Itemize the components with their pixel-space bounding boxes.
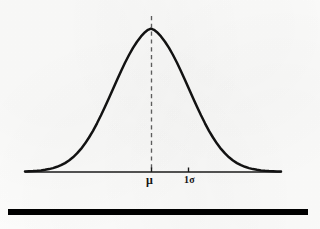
bottom-rule: [8, 209, 308, 215]
axis-label-mu: μ: [146, 174, 153, 186]
axis-label-one-sigma: 1σ: [184, 175, 195, 185]
normal-distribution-figure: μ 1σ: [0, 0, 320, 229]
bell-curve: [25, 29, 281, 172]
distribution-plot: [0, 0, 320, 229]
